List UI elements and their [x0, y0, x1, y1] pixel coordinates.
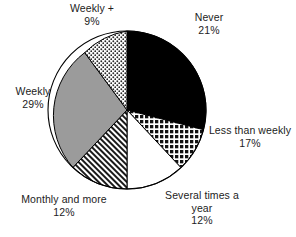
pie-label-less-than-weekly-name: Less than weekly — [209, 124, 291, 136]
pie-label-never: Never 21% — [166, 11, 252, 36]
pie-label-weekly-plus-percent: 9% — [40, 15, 144, 28]
pie-label-several-times-line2: year — [150, 202, 254, 215]
pie-label-several-times-percent: 12% — [150, 214, 254, 227]
pie-label-weekly: Weekly 29% — [2, 85, 64, 110]
pie-label-never-percent: 21% — [166, 24, 252, 37]
pie-label-monthly-and-more-percent: 12% — [2, 206, 126, 219]
pie-label-less-than-weekly-percent: 17% — [204, 137, 296, 150]
pie-label-weekly-plus: Weekly + 9% — [40, 2, 144, 27]
pie-label-weekly-percent: 29% — [2, 98, 64, 111]
pie-label-weekly-plus-name: Weekly + — [70, 2, 114, 14]
pie-label-several-times-line1: Several times a — [165, 189, 239, 201]
pie-label-monthly-and-more-name: Monthly and more — [21, 193, 107, 205]
pie-label-never-name: Never — [195, 11, 224, 23]
pie-label-weekly-name: Weekly — [16, 85, 51, 97]
pie-label-monthly-and-more: Monthly and more 12% — [2, 193, 126, 218]
pie-label-less-than-weekly: Less than weekly 17% — [204, 124, 296, 149]
pie-label-several-times-a-year: Several times a year 12% — [150, 189, 254, 227]
pie-chart: Weekly + 9% Never 21% Less than weekly 1… — [0, 0, 296, 237]
